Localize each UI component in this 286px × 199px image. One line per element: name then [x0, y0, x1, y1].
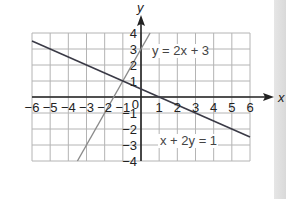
- equation-labels: y = 2x + 3x + 2y = 1: [150, 43, 218, 148]
- y-tick-label: 2: [130, 58, 137, 73]
- y-tick-label: 3: [130, 42, 137, 57]
- x-tick-label: 5: [228, 100, 235, 115]
- x-tick-label: 2: [174, 100, 181, 115]
- x-tick-label: 4: [210, 100, 217, 115]
- y-tick-label: −2: [122, 122, 137, 137]
- origin-label: 0: [132, 97, 139, 112]
- equation-label-line2: x + 2y = 1: [160, 133, 217, 148]
- y-axis-label: y: [136, 0, 145, 15]
- x-tick-label: 3: [192, 100, 199, 115]
- x-tick-label: 6: [246, 100, 253, 115]
- coordinate-plane-chart: xy −6−5−4−3−2−11234564321−1−2−3−40 y = 2…: [0, 0, 286, 199]
- x-tick-label: −4: [61, 100, 76, 115]
- x-tick-label: 1: [156, 100, 163, 115]
- equation-label-line1: y = 2x + 3: [152, 43, 209, 58]
- x-axis-label: x: [277, 90, 285, 105]
- y-tick-label: −4: [122, 154, 137, 169]
- x-tick-label: −3: [79, 100, 94, 115]
- x-tick-label: −5: [43, 100, 58, 115]
- y-tick-label: −3: [122, 138, 137, 153]
- y-tick-label: 4: [130, 26, 137, 41]
- x-tick-label: −2: [97, 100, 112, 115]
- y-tick-label: 1: [130, 74, 137, 89]
- x-tick-label: −6: [25, 100, 40, 115]
